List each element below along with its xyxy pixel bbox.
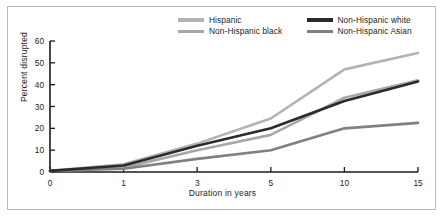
x-axis-title: Duration in years bbox=[0, 188, 445, 198]
legend-entry-non-hispanic-white: Non-Hispanic white bbox=[307, 16, 428, 24]
legend-swatch-non-hispanic-white bbox=[307, 18, 333, 22]
y-tick-label: 10 bbox=[22, 145, 44, 155]
y-tick-label: 50 bbox=[22, 58, 44, 68]
legend-entry-hispanic: Hispanic bbox=[178, 16, 299, 24]
y-tick-label: 40 bbox=[22, 80, 44, 90]
legend-entry-non-hispanic-black: Non-Hispanic black bbox=[178, 27, 299, 35]
legend-label-hispanic: Hispanic bbox=[209, 16, 242, 24]
chart-legend: Hispanic Non-Hispanic white Non-Hispanic… bbox=[178, 16, 428, 36]
chart-figure: Hispanic Non-Hispanic white Non-Hispanic… bbox=[0, 0, 445, 219]
x-tick-label: 0 bbox=[38, 178, 62, 188]
legend-label-non-hispanic-asian: Non-Hispanic Asian bbox=[338, 27, 412, 35]
y-tick-label: 0 bbox=[22, 167, 44, 177]
chart-series bbox=[50, 53, 418, 171]
chart-axes bbox=[50, 41, 418, 172]
y-tick-label: 20 bbox=[22, 123, 44, 133]
y-tick-label: 30 bbox=[22, 102, 44, 112]
x-tick-label: 1 bbox=[112, 178, 136, 188]
legend-entry-non-hispanic-asian: Non-Hispanic Asian bbox=[307, 27, 428, 35]
series-line-hispanic bbox=[50, 53, 418, 171]
legend-swatch-hispanic bbox=[178, 18, 204, 22]
legend-label-non-hispanic-black: Non-Hispanic black bbox=[209, 27, 282, 35]
legend-label-non-hispanic-white: Non-Hispanic white bbox=[338, 16, 411, 24]
y-tick-label: 60 bbox=[22, 36, 44, 46]
legend-swatch-non-hispanic-asian bbox=[307, 30, 333, 34]
legend-swatch-non-hispanic-black bbox=[178, 30, 204, 34]
x-tick-label: 15 bbox=[406, 178, 430, 188]
series-line-non-hispanic-black bbox=[50, 80, 418, 171]
x-tick-label: 5 bbox=[259, 178, 283, 188]
x-tick-label: 10 bbox=[332, 178, 356, 188]
x-tick-label: 3 bbox=[185, 178, 209, 188]
